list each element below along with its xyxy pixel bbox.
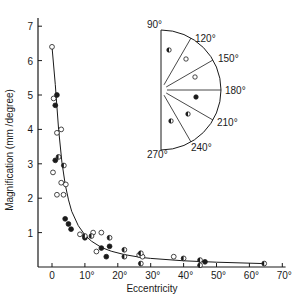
data-point <box>56 155 61 160</box>
data-point <box>53 103 58 108</box>
open-marker <box>63 182 68 187</box>
data-point <box>194 95 198 99</box>
data-point <box>107 244 112 249</box>
data-point <box>198 263 203 268</box>
x-tick-label: 20° <box>112 270 127 281</box>
data-point <box>55 192 60 197</box>
open-marker <box>94 249 99 254</box>
data-point <box>50 44 55 49</box>
inset-sector-line <box>164 95 191 142</box>
open-marker <box>99 230 104 235</box>
filled-marker <box>194 95 198 99</box>
inset-sector-line <box>166 60 213 87</box>
data-point <box>89 234 94 239</box>
open-marker <box>61 192 66 197</box>
data-point <box>59 180 64 185</box>
data-point <box>184 57 188 61</box>
data-point <box>122 247 127 252</box>
filled-marker <box>104 254 109 259</box>
filled-marker <box>55 93 60 98</box>
y-tick-label: 7 <box>27 21 33 32</box>
data-point <box>104 254 109 259</box>
data-point <box>61 192 66 197</box>
filled-marker <box>63 216 68 221</box>
x-tick-label: 60° <box>244 270 259 281</box>
x-tick-label: 50° <box>211 270 226 281</box>
data-point <box>138 261 143 266</box>
data-point <box>63 216 68 221</box>
polar-angle-inset: 90°120°150°180°210°240°270° <box>147 19 246 160</box>
filled-marker <box>203 259 208 264</box>
open-marker <box>193 75 197 79</box>
inset-angle-label: 90° <box>147 19 162 30</box>
x-tick-label: 10° <box>79 270 94 281</box>
data-point <box>138 251 143 256</box>
x-tick-label: 30° <box>145 270 160 281</box>
y-axis-label: Magnification (mm /degree) <box>4 89 15 211</box>
open-marker <box>78 232 83 237</box>
y-tick-label: 6 <box>27 56 33 67</box>
data-point <box>66 222 71 227</box>
filled-marker <box>66 222 71 227</box>
inset-angle-label: 120° <box>195 33 216 44</box>
open-marker <box>55 130 60 135</box>
data-point <box>262 261 267 266</box>
data-point <box>203 259 208 264</box>
open-marker <box>50 44 55 49</box>
data-point <box>171 254 176 259</box>
data-point <box>83 234 88 239</box>
data-point <box>198 258 203 263</box>
data-point <box>99 246 104 251</box>
x-tick-label: 0 <box>49 270 55 281</box>
data-point <box>69 227 74 232</box>
inset-angle-label: 240° <box>191 142 212 153</box>
filled-marker <box>69 227 74 232</box>
data-point <box>63 182 68 187</box>
data-point <box>181 256 186 261</box>
inset-angle-label: 180° <box>225 85 246 96</box>
data-point <box>186 112 190 116</box>
data-point <box>55 93 60 98</box>
open-marker <box>55 192 60 197</box>
inset-sector-line <box>164 38 191 85</box>
filled-marker <box>53 103 58 108</box>
y-tick-label: 5 <box>27 90 33 101</box>
data-point <box>167 48 171 52</box>
data-point <box>99 230 104 235</box>
x-tick-label: 40° <box>178 270 193 281</box>
data-point <box>94 249 99 254</box>
data-point <box>51 170 56 175</box>
data-point <box>78 232 83 237</box>
magnification-eccentricity-chart: 1234567010°20°30°40°50°60°70° 90°120°150… <box>0 0 302 302</box>
open-marker <box>59 180 64 185</box>
open-marker <box>51 170 56 175</box>
data-point <box>61 163 66 168</box>
inset-angle-label: 210° <box>217 117 238 128</box>
open-marker <box>184 57 188 61</box>
filled-marker <box>107 244 112 249</box>
open-marker <box>59 127 64 132</box>
data-point <box>169 119 173 123</box>
data-point <box>193 75 197 79</box>
data-point <box>59 127 64 132</box>
filled-marker <box>99 246 104 251</box>
data-point <box>55 130 60 135</box>
x-tick-label: 70° <box>277 270 292 281</box>
y-tick-label: 4 <box>27 124 33 135</box>
data-point <box>107 235 112 240</box>
x-axis-label: Eccentricity <box>126 283 177 294</box>
data-point <box>122 254 127 259</box>
y-tick-label: 1 <box>27 228 33 239</box>
inset-angle-label: 270° <box>147 149 168 160</box>
y-tick-label: 3 <box>27 159 33 170</box>
open-marker <box>171 254 176 259</box>
inset-angle-label: 150° <box>218 53 239 64</box>
y-tick-label: 2 <box>27 193 33 204</box>
